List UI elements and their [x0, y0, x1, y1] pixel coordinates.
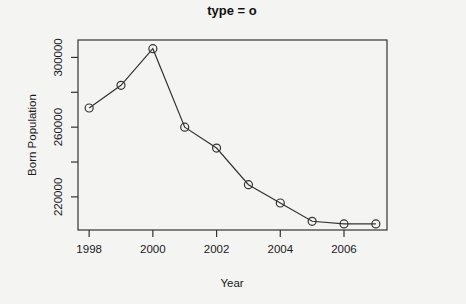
x-tick-label: 2000	[140, 243, 166, 255]
x-axis-label: Year	[220, 277, 243, 289]
x-axis: 19982000200220042006	[76, 230, 356, 255]
y-tick-label: 300000	[52, 38, 64, 76]
y-tick-label: 260000	[52, 108, 64, 146]
chart: type = o 19982000200220042006 2200002600…	[0, 0, 466, 304]
series-line	[89, 49, 376, 224]
y-axis: 220000260000300000	[52, 38, 78, 216]
chart-title: type = o	[207, 3, 257, 18]
x-tick-label: 2002	[204, 243, 230, 255]
x-tick-label: 2006	[331, 243, 357, 255]
y-tick-label: 220000	[52, 178, 64, 216]
data-series	[85, 45, 380, 228]
x-tick-label: 1998	[76, 243, 102, 255]
plot-frame	[78, 40, 387, 230]
y-axis-label: Born Population	[26, 94, 38, 176]
x-tick-label: 2004	[267, 243, 293, 255]
